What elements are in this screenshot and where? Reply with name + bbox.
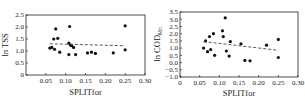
y-axis-label-subscript: Mn (157, 27, 163, 35)
y-tick-label: −0.5 (165, 66, 178, 74)
x-tick-label: 0.05 (194, 79, 207, 87)
trend-line (50, 44, 125, 46)
data-point (124, 48, 127, 51)
y-tick-label: −1.0 (165, 73, 178, 81)
x-tick-label: 0.20 (253, 79, 266, 87)
data-point (243, 59, 246, 62)
right-chart-cod: 00.050.100.150.200.250.30−1.0−0.50.00.51… (152, 8, 305, 98)
data-point (67, 53, 70, 56)
data-point (229, 40, 232, 43)
x-tick-label: 0.25 (119, 77, 132, 85)
data-point (222, 35, 225, 38)
y-tick-label: 1.0 (169, 44, 178, 52)
data-point (72, 46, 75, 49)
y-axis-label: ln CODMn (152, 27, 163, 62)
data-point (221, 29, 224, 32)
x-tick-label: 0.30 (292, 79, 305, 87)
data-point (56, 37, 59, 40)
data-point (86, 51, 89, 54)
data-point (213, 54, 216, 57)
y-tick-label: 2.0 (169, 30, 178, 38)
data-point (202, 47, 205, 50)
y-tick-label: 2.5 (169, 23, 178, 31)
x-tick-label: 0.15 (233, 79, 246, 87)
data-point (239, 42, 242, 45)
y-tick-label: 0.5 (169, 52, 178, 60)
y-tick-label: 0 (21, 71, 25, 79)
y-axis-label: ln TSS (0, 33, 10, 57)
data-point (52, 37, 55, 40)
data-point (50, 46, 53, 49)
data-point (277, 38, 280, 41)
chart-figure: 0.050.100.150.200.250.3000.51.01.52.02.5… (0, 0, 305, 99)
data-point (228, 54, 231, 57)
x-axis-label: SPLITfor (223, 88, 256, 98)
y-tick-label: 1.5 (169, 37, 178, 45)
data-point (74, 53, 77, 56)
data-point (68, 25, 71, 28)
x-tick-label: 0.30 (139, 77, 152, 85)
x-tick-label: 0.05 (40, 77, 53, 85)
x-axis-label: SPLITfor (69, 87, 102, 97)
y-tick-label: 2.0 (15, 23, 24, 31)
plot-frame (180, 12, 298, 77)
data-point (112, 51, 115, 54)
data-point (58, 51, 61, 54)
x-tick-label: 0.10 (213, 79, 226, 87)
data-point (53, 48, 56, 51)
data-point (94, 52, 97, 55)
data-point (277, 56, 280, 59)
y-tick-label: 3.0 (169, 16, 178, 24)
y-tick-label: 1.0 (15, 47, 24, 55)
x-tick-label: 0.20 (99, 77, 112, 85)
data-point (225, 49, 228, 52)
y-tick-label: 0.5 (15, 59, 24, 67)
x-tick-label: 0.15 (79, 77, 92, 85)
data-point (209, 48, 212, 51)
left-chart-tss: 0.050.100.150.200.250.3000.51.01.52.02.5… (0, 11, 152, 97)
y-tick-label: 1.5 (15, 35, 24, 43)
x-tick-label: 0.10 (60, 77, 73, 85)
y-tick-label: 2.5 (15, 11, 24, 19)
data-point (224, 16, 227, 19)
data-point (212, 32, 215, 35)
data-point (248, 59, 251, 62)
data-point (206, 50, 209, 53)
x-tick-label: 0.25 (272, 79, 285, 87)
data-point (124, 24, 127, 27)
data-point (90, 51, 93, 54)
data-point (208, 35, 211, 38)
y-tick-label: 3.5 (169, 8, 178, 16)
data-point (265, 44, 268, 47)
x-tick-label: 0 (178, 79, 182, 87)
data-point (54, 27, 57, 30)
y-tick-label: 0.0 (169, 59, 178, 67)
